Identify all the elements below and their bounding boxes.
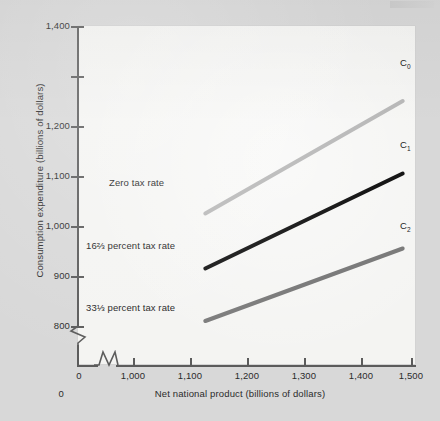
x-tick-1100 [190,358,192,366]
x-tick-label-0: 0 [76,370,81,381]
x-axis-line [116,365,416,367]
curve-label-c0-text: C [400,57,407,68]
y-tick-1100 [71,176,84,178]
y-tick-1000 [71,226,84,228]
annotation-33-one-third-tax-rate: 33⅓ percent tax rate [86,302,175,313]
x-axis-title: Net national product (billions of dollar… [0,388,440,399]
curve-label-c2: C2 [400,220,411,233]
curve-label-c2-text: C [400,220,407,231]
y-tick-1300-unlabeled [71,76,84,78]
y-tick-label-group: 1,400 1,200 1,100 1,000 900 800 0 [22,0,70,421]
x-tick-label-1100: 1,100 [178,370,202,381]
x-tick-1500 [411,358,413,366]
curve-label-c1: C1 [400,139,411,152]
y-tick-800 [71,326,84,328]
y-axis-title: Consumption expenditure (billions of dol… [34,56,45,306]
y-tick-label-800: 800 [26,320,70,331]
x-tick-label-1300: 1,300 [292,370,316,381]
y-tick-900 [71,276,84,278]
plot-panel [78,26,415,364]
x-tick-1000 [133,358,135,366]
x-tick-label-1500: 1,500 [399,370,423,381]
y-tick-1200 [71,126,84,128]
curve-label-c1-text: C [400,139,407,150]
plot-grain [78,26,415,364]
curve-label-c0-subscript: 0 [407,63,411,70]
x-tick-label-1200: 1,200 [235,370,259,381]
x-tick-label-1000: 1,000 [121,370,145,381]
x-tick-1300 [304,358,306,366]
x-tick-label-1400: 1,400 [349,370,373,381]
curve-label-c1-subscript: 1 [407,145,411,152]
x-tick-1400 [361,358,363,366]
annotation-16-two-thirds-tax-rate: 16⅔ percent tax rate [86,240,175,251]
page-corner-artifact [390,1,434,8]
curve-label-c2-subscript: 2 [407,226,411,233]
y-tick-1400 [71,26,84,28]
annotation-zero-tax-rate: Zero tax rate [109,177,164,188]
curve-label-c0: C0 [400,57,411,70]
y-tick-label-1400: 1,400 [26,20,70,31]
x-axis-break-icon [94,350,120,368]
x-tick-1200 [247,358,249,366]
figure-canvas: 1,400 1,200 1,100 1,000 900 800 0 0 1,00… [0,0,440,421]
y-axis-lower-stub [77,345,79,367]
